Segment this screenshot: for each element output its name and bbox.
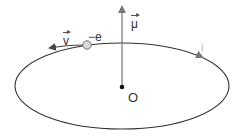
charge-label: −e	[88, 31, 102, 43]
origin-dot	[120, 85, 125, 90]
velocity-label: v	[63, 35, 69, 47]
current-label: i	[201, 43, 203, 53]
origin-label: O	[128, 91, 138, 104]
orbit-diagram	[0, 0, 238, 139]
moment-label: μ	[131, 18, 138, 30]
